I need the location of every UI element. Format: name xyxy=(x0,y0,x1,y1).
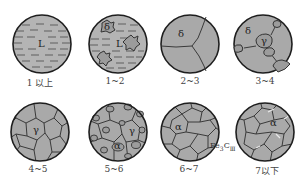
panel-caption: 7以下 xyxy=(255,164,279,177)
annotation-subscript-roman: Ⅲ xyxy=(230,145,236,152)
panel-caption: 1~2 xyxy=(106,76,125,86)
phase-label-delta: δ xyxy=(104,21,110,32)
phase-label-gamma: γ xyxy=(33,124,39,135)
panel-gamma: γ 4~5 xyxy=(0,90,76,181)
panel-delta: δ 2~3 xyxy=(152,0,228,90)
cementite-annotation: Fe3CⅢ xyxy=(210,141,236,152)
phase-label-gamma: γ xyxy=(261,35,267,46)
panel-caption: 1 以上 xyxy=(27,76,54,89)
panel-alpha: α 6~7 xyxy=(152,90,228,181)
panel-delta-liquid: δ L 1~2 xyxy=(76,0,152,90)
panel-gamma-alpha: γ α 5~6 xyxy=(76,90,152,181)
phase-label-alpha: α xyxy=(175,121,182,132)
panel-caption: 5~6 xyxy=(105,164,124,174)
phase-label-liquid: L xyxy=(116,38,123,49)
phase-label-alpha: α xyxy=(114,140,121,151)
panel-caption: 3~4 xyxy=(256,76,275,86)
annotation-base: Fe xyxy=(210,141,220,150)
panel-caption: 6~7 xyxy=(180,164,199,174)
phase-label-delta: δ xyxy=(245,25,251,36)
phase-label-gamma: γ xyxy=(129,125,135,136)
phase-label-liquid: L xyxy=(38,38,45,49)
panel-caption: 4~5 xyxy=(29,164,48,174)
panel-liquid: L 1 以上 xyxy=(0,0,76,90)
panel-alpha-cementite: α 7以下 xyxy=(228,90,307,181)
phase-label-delta: δ xyxy=(178,28,184,39)
panel-caption: 2~3 xyxy=(181,76,200,86)
phase-label-alpha: α xyxy=(270,117,277,128)
panel-delta-gamma: δ γ 3~4 xyxy=(228,0,307,90)
